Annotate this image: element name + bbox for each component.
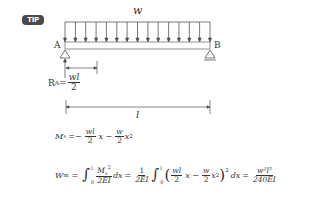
integral-sign: ∫ xyxy=(82,165,90,183)
reaction-formula: RA= wl 2 xyxy=(48,73,81,93)
moment-equation: Mx =− wl2 x − w2 x2 xyxy=(55,128,133,145)
load-label: w xyxy=(133,5,142,16)
support-a-icon xyxy=(60,50,70,58)
strain-energy-equation: Wm = ∫ l0 Mx22EI dx = 12EI ∫ l0 ( wl2 x … xyxy=(55,165,278,185)
equals-sign: = xyxy=(59,78,67,88)
support-b-label: B xyxy=(214,41,221,50)
reaction-fraction: wl 2 xyxy=(68,73,81,93)
load-arrows xyxy=(64,22,212,42)
support-b-icon xyxy=(204,50,216,60)
span-label: l xyxy=(136,110,139,120)
integral-sign: ∫ xyxy=(151,165,159,183)
reaction-symbol: R xyxy=(48,78,55,88)
support-a-label: A xyxy=(54,41,61,50)
